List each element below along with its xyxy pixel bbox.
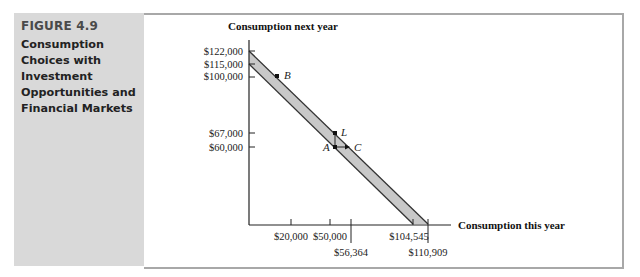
point-c-label: C <box>354 141 362 153</box>
y-tick-label: $100,000 <box>204 71 243 82</box>
point-b-label: B <box>284 69 291 81</box>
y-tick-label: $115,000 <box>204 59 243 70</box>
x-axis-title: Consumption this year <box>458 219 565 231</box>
x-tick-label: $50,000 <box>313 231 347 242</box>
y-tick-label: $122,000 <box>204 46 243 57</box>
chart: Consumption next year $122,000 $115,000 … <box>0 0 640 277</box>
point-a-label: A <box>322 141 330 153</box>
x-tick-label: $110,909 <box>409 247 448 258</box>
x-tick-label: $104,545 <box>389 231 428 242</box>
point-a-marker <box>333 145 337 149</box>
inner-budget-line <box>249 64 413 224</box>
x-tick-label: $56,364 <box>334 247 369 258</box>
x-tick-label: $20,000 <box>274 231 308 242</box>
y-tick-label: $67,000 <box>209 128 243 139</box>
y-axis-title: Consumption next year <box>228 20 338 32</box>
point-b-marker <box>275 74 279 78</box>
point-l-label: L <box>340 126 347 138</box>
point-l-marker <box>333 131 337 135</box>
y-tick-label: $60,000 <box>209 142 243 153</box>
